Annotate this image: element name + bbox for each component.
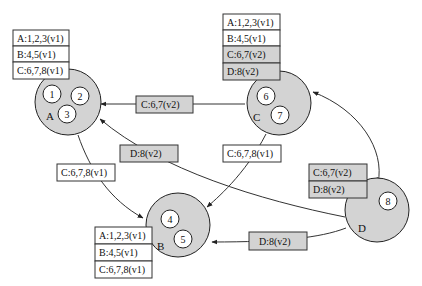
edge-label-d-to-b: D:8(v2) [249, 232, 307, 250]
svg-text:C:6,7,8(v1): C:6,7,8(v1) [99, 264, 145, 276]
table-a: A:1,2,3(v1) B:4,5(v1) C:6,7,8(v1) [13, 30, 69, 79]
svg-text:1: 1 [50, 89, 55, 100]
svg-text:8: 8 [386, 196, 391, 207]
edge-d-to-a [100, 119, 345, 217]
replication-diagram: 1 2 3 A A:1,2,3(v1) B:4,5(v1) C:6,7,8(v1… [0, 0, 422, 286]
svg-text:4: 4 [168, 214, 173, 225]
svg-text:D:8(v2): D:8(v2) [130, 148, 162, 160]
svg-text:A:1,2,3(v1): A:1,2,3(v1) [99, 230, 146, 242]
edge-label-c-to-a: C:6,7(v2) [136, 96, 193, 113]
svg-text:D:8(v2): D:8(v2) [313, 184, 345, 196]
svg-text:C: C [253, 111, 260, 123]
svg-text:C:6,7(v2): C:6,7(v2) [227, 49, 266, 61]
svg-text:A:1,2,3(v1): A:1,2,3(v1) [227, 17, 274, 29]
svg-text:B:4,5(v1): B:4,5(v1) [99, 247, 138, 259]
svg-text:C:6,7,8(v1): C:6,7,8(v1) [17, 65, 63, 77]
svg-text:C:6,7,8(v1): C:6,7,8(v1) [227, 148, 273, 160]
svg-text:B:4,5(v1): B:4,5(v1) [227, 33, 266, 45]
edge-label-d-to-a: D:8(v2) [120, 145, 178, 162]
svg-text:2: 2 [78, 91, 83, 102]
svg-text:C:6,7(v2): C:6,7(v2) [313, 167, 352, 179]
svg-text:A: A [46, 110, 54, 122]
svg-text:5: 5 [181, 234, 186, 245]
table-c: A:1,2,3(v1) B:4,5(v1) C:6,7(v2) D:8(v2) [223, 14, 280, 80]
node-c: 6 7 C [247, 71, 311, 135]
svg-text:D:8(v2): D:8(v2) [227, 66, 259, 78]
svg-text:D: D [358, 222, 366, 234]
node-b: 4 5 B [146, 193, 210, 257]
svg-text:B:4,5(v1): B:4,5(v1) [17, 49, 56, 61]
table-d: C:6,7(v2) D:8(v2) [309, 164, 367, 198]
svg-text:7: 7 [278, 110, 283, 121]
edge-label-c-to-b: C:6,7,8(v1) [223, 145, 281, 162]
svg-text:3: 3 [65, 109, 70, 120]
svg-text:6: 6 [264, 91, 269, 102]
svg-text:C:6,7,8(v1): C:6,7,8(v1) [61, 167, 107, 179]
svg-text:B: B [157, 240, 164, 252]
edge-label-a-to-b: C:6,7,8(v1) [57, 164, 115, 181]
svg-text:C:6,7(v2): C:6,7(v2) [141, 99, 180, 111]
table-b: A:1,2,3(v1) B:4,5(v1) C:6,7,8(v1) [95, 227, 152, 278]
svg-text:A:1,2,3(v1): A:1,2,3(v1) [17, 33, 64, 45]
svg-text:D:8(v2): D:8(v2) [259, 236, 291, 248]
